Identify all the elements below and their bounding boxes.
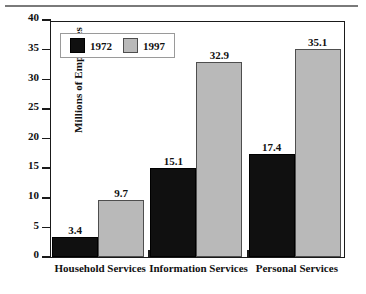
y-axis-tick-label: 30	[28, 71, 39, 83]
legend-label-1972: 1972	[90, 40, 112, 52]
y-axis-tick-label: 0	[34, 248, 40, 260]
x-axis-label: Household Services	[54, 262, 145, 274]
y-axis-tick: 10	[42, 197, 51, 199]
bar-value-label: 3.4	[68, 224, 82, 236]
y-axis-tick-label: 10	[28, 189, 39, 201]
y-axis-tick: 5	[42, 227, 51, 229]
y-axis-tick: 25	[42, 108, 51, 110]
x-axis-label: Information Services	[149, 262, 248, 274]
group-separator-tick	[247, 250, 249, 257]
chart-legend: 1972 1997	[60, 33, 175, 58]
y-axis-tick: 15	[42, 167, 51, 169]
y-axis-tick-label: 40	[28, 11, 39, 23]
y-axis-tick: 40	[42, 19, 51, 21]
bar-value-label: 15.1	[164, 155, 183, 167]
legend-item-1997: 1997	[123, 38, 165, 53]
group-separator-tick	[148, 250, 150, 257]
y-axis-tick-label: 15	[28, 159, 39, 171]
bar-value-label: 9.7	[114, 187, 128, 199]
legend-item-1972: 1972	[70, 38, 112, 53]
y-axis-tick: 0	[42, 256, 51, 258]
plot-area: Millions of Employees 0510152025303540 3…	[50, 21, 345, 258]
legend-swatch-1997	[123, 38, 138, 53]
top-divider-rule	[5, 5, 358, 7]
bar-1997-information-services: 32.9	[196, 62, 242, 257]
legend-swatch-1972	[70, 38, 85, 53]
y-axis-tick: 30	[42, 79, 51, 81]
y-axis-title: Millions of Employees	[72, 0, 84, 160]
bar-1972-personal-services: 17.4	[249, 154, 295, 257]
bar-value-label: 35.1	[308, 36, 327, 48]
bar-value-label: 32.9	[210, 49, 229, 61]
y-axis-tick: 35	[42, 49, 51, 51]
bar-chart-figure: Millions of Employees 0510152025303540 3…	[0, 0, 366, 294]
y-axis-tick-label: 25	[28, 100, 39, 112]
x-axis-label: Personal Services	[256, 262, 338, 274]
legend-label-1997: 1997	[143, 40, 165, 52]
bar-1972-information-services: 15.1	[150, 168, 196, 257]
y-axis-tick-label: 5	[34, 219, 40, 231]
bar-1997-household-services: 9.7	[98, 200, 144, 257]
y-axis-tick-label: 20	[28, 130, 39, 142]
bar-value-label: 17.4	[262, 141, 281, 153]
y-axis-tick-label: 35	[28, 41, 39, 53]
bar-1972-household-services: 3.4	[52, 237, 98, 257]
y-axis-tick: 20	[42, 138, 51, 140]
bar-1997-personal-services: 35.1	[295, 49, 341, 257]
